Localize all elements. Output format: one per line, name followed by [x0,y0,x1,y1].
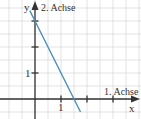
x-axis-label: 1. Achse [104,86,139,97]
y-axis-label: 2. Achse [41,2,76,13]
x-tick-label: 1 [58,101,64,113]
coordinate-plot: 1 1 1. Achse x 2. Achse y [0,0,141,119]
y-tick-label: 1 [25,67,31,79]
axis-ticks [32,21,114,103]
y-axis-arrow-icon [32,1,39,10]
grid-lines [0,0,141,119]
x-axis-letter: x [129,102,135,114]
data-line [30,11,81,112]
y-axis-letter: y [24,1,30,13]
